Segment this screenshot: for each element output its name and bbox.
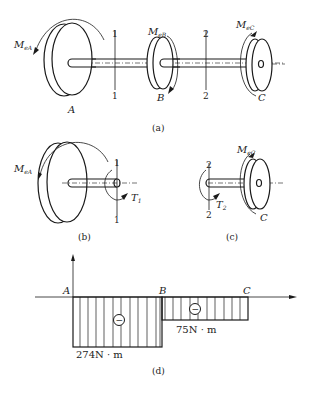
caption-d: (d): [152, 366, 165, 376]
disc-label-c: C: [258, 92, 266, 103]
moment-label-b: MeA: [13, 163, 33, 175]
point-label-a: A: [62, 285, 70, 296]
section-2-top-label: 2: [203, 29, 209, 39]
y-axis-arrow-icon: [71, 254, 75, 261]
hatch-bc: [165, 297, 240, 320]
point-label-c: C: [243, 285, 251, 296]
disc-a: [44, 23, 96, 96]
arrowhead-icon: [33, 47, 39, 55]
disc-label-b: B: [156, 92, 164, 103]
disc-label-c: C: [260, 212, 268, 223]
caption-b: (b): [78, 232, 91, 242]
torque-label-t2: T2: [216, 199, 227, 211]
section-1-top-label: 1: [112, 29, 118, 39]
section-1-bottom-label: 1: [112, 91, 118, 101]
moment-label-a: MeA: [13, 39, 33, 51]
figure-d-torque-diagram: − − A B C 274N · m 75N · m (d): [35, 254, 297, 376]
section-bottom-label: 1: [114, 215, 120, 225]
section-bottom-label: 2: [206, 210, 212, 220]
sign-bc: −: [192, 304, 200, 314]
point-label-b: B: [158, 285, 166, 296]
value-label-bc: 75N · m: [176, 324, 217, 335]
figure-a: 1 1 2 2 MeA MeB MeC A B C (a): [13, 19, 285, 133]
arrowhead-icon: [168, 86, 174, 94]
sign-ab: −: [116, 315, 124, 325]
disc-label-a: A: [67, 104, 75, 115]
torque-segment-bc: [162, 297, 248, 320]
section-top-label: 2: [206, 160, 212, 170]
section-2-bottom-label: 2: [203, 91, 209, 101]
moment-label-c: MeC: [236, 144, 256, 156]
value-label-ab: 274N · m: [76, 349, 123, 360]
figure-b: 1 1 MeA T1 (b): [13, 142, 142, 242]
caption-c: (c): [226, 232, 238, 242]
figure-c: 2 2 MeC T2 C (c): [199, 144, 285, 242]
x-axis-arrow-icon: [289, 295, 297, 299]
section-top-label: 1: [114, 158, 120, 168]
moment-label-c: MeC: [235, 19, 255, 31]
torque-label-t1: T1: [131, 192, 142, 204]
disc-c: [246, 39, 285, 91]
moment-label-b: MeB: [147, 26, 167, 38]
torsion-shaft-figure: 1 1 2 2 MeA MeB MeC A B C (a) 1 1 MeA: [0, 0, 313, 394]
caption-a: (a): [152, 123, 164, 133]
